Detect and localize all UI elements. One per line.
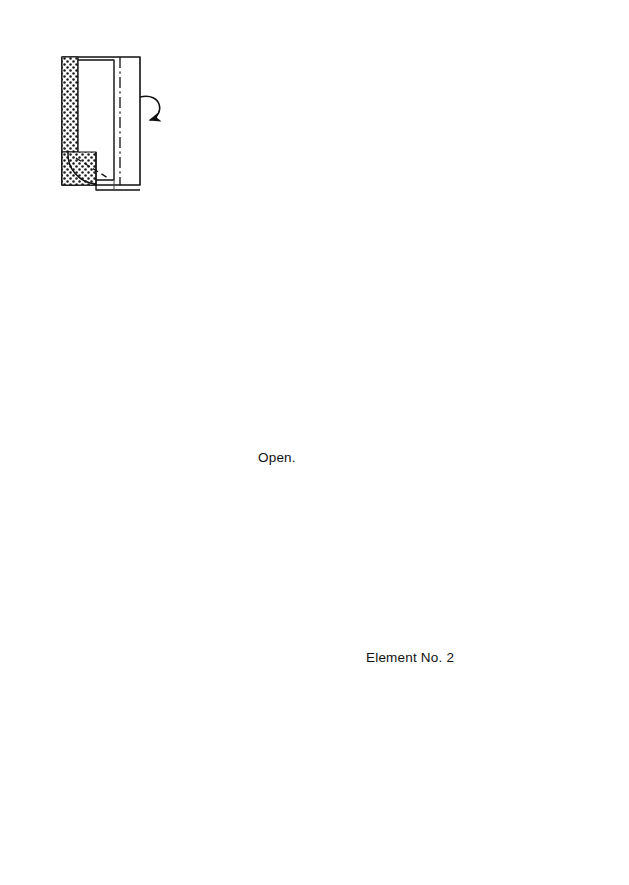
- element-number-label: Element No. 2: [366, 650, 454, 665]
- origami-diagram-canvas: [0, 0, 629, 885]
- diagram-sheet: 5 6 7 8 9 10 11 12: [0, 0, 629, 885]
- open-instruction-label: Open.: [258, 450, 296, 465]
- step-5-figure: [62, 57, 160, 190]
